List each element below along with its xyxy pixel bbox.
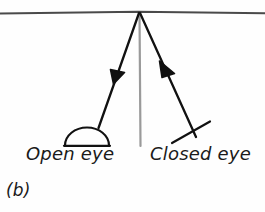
figure-panel-b: Open eye Closed eye (b) [0, 0, 265, 212]
closed-eye-label: Closed eye [150, 143, 251, 164]
ray-from-closed-eye [140, 13, 196, 137]
diagram-canvas [0, 0, 265, 212]
open-eye-label: Open eye [26, 143, 114, 164]
normal-line [140, 13, 141, 146]
figure-caption: (b) [6, 180, 31, 200]
surface-line [0, 12, 265, 14]
ray-to-open-eye [99, 13, 140, 128]
